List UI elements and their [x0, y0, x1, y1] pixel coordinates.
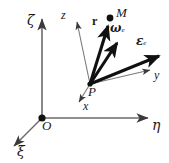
omega-subscript: e — [121, 26, 124, 34]
global-axes-group — [14, 19, 148, 146]
label-point-M: M — [116, 6, 127, 19]
label-vector-epsilon-e: εe — [136, 35, 146, 47]
label-x-axis: x — [83, 100, 88, 112]
label-xi: ξ — [17, 144, 25, 158]
label-y-axis: y — [154, 69, 159, 81]
label-eta: η — [152, 118, 160, 132]
label-vector-omega-e: ωe — [110, 22, 125, 34]
epsilon-subscript: e — [143, 39, 146, 47]
label-point-P: P — [88, 85, 96, 98]
position-vector-r-line — [90, 26, 108, 84]
label-z-axis: z — [61, 9, 66, 21]
omega-glyph: ω — [110, 21, 121, 35]
z-axis-line — [77, 22, 90, 84]
label-vector-r: r — [92, 15, 97, 27]
xi-axis-line — [14, 118, 42, 146]
label-zeta: ζ — [27, 13, 35, 27]
label-origin-O: O — [42, 119, 51, 132]
diagram-canvas — [0, 0, 169, 163]
vector-diagram-figure: ζ η ξ O P M z x y r ωe εe — [0, 0, 169, 163]
